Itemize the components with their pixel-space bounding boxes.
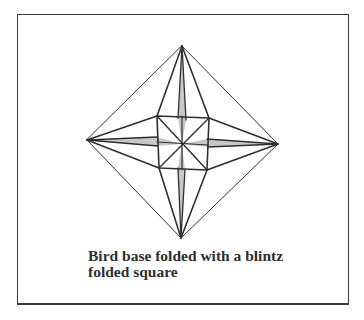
caption-line-1: Bird base folded with a blintz (88, 248, 328, 264)
caption-line-2: folded square (88, 264, 328, 280)
edge-bottom-bl (159, 168, 181, 238)
edge-top-tr (182, 46, 209, 118)
edge-right-br (207, 144, 278, 170)
diagram-caption: Bird base folded with a blintz folded sq… (88, 248, 328, 280)
edge-left-tl (87, 116, 157, 140)
